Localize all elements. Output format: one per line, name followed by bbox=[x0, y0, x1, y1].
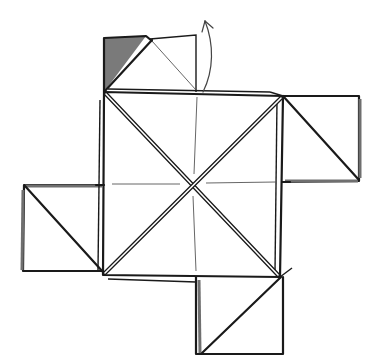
horizontal-crease-right bbox=[206, 182, 276, 183]
center-square bbox=[96, 89, 290, 283]
left-flap bbox=[22, 185, 103, 272]
fold-up-arrow-icon bbox=[202, 21, 213, 92]
vertical-crease-bottom bbox=[193, 196, 196, 271]
vertical-crease-top bbox=[194, 97, 197, 174]
top-flap bbox=[104, 35, 196, 92]
origami-diagram bbox=[0, 0, 366, 356]
diagram-canvas bbox=[0, 0, 366, 356]
bottom-flap bbox=[196, 268, 292, 354]
